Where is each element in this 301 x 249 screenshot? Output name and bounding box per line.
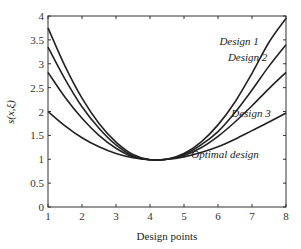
annotation-design-1: Design 1: [218, 35, 258, 47]
y-tick-label: 0: [39, 201, 45, 213]
y-axis-label: s(x,ξ): [4, 100, 17, 124]
y-tick-label: 2.5: [30, 82, 44, 94]
x-tick-label: 3: [113, 210, 119, 222]
y-tick-label: 1: [39, 153, 45, 165]
y-tick-label: 1.5: [30, 129, 44, 141]
x-tick-label: 7: [249, 210, 255, 222]
line-chart: 1234567800.511.522.533.54Design 1Design …: [0, 0, 301, 249]
plot-area: 1234567800.511.522.533.54Design 1Design …: [30, 10, 289, 222]
annotation-design-3: Design 3: [230, 107, 271, 119]
x-tick-label: 8: [283, 210, 289, 222]
annotation-optimal-design: Optimal design: [191, 148, 259, 160]
y-tick-label: 2: [39, 106, 45, 118]
y-tick-label: 0.5: [30, 177, 44, 189]
x-tick-label: 4: [147, 210, 153, 222]
y-tick-label: 3.5: [30, 34, 44, 46]
annotation-design-2: Design 2: [227, 51, 268, 63]
y-tick-label: 3: [39, 58, 45, 70]
y-tick-label: 4: [39, 10, 45, 22]
x-tick-label: 6: [215, 210, 221, 222]
x-tick-label: 1: [45, 210, 51, 222]
x-axis-label: Design points: [137, 230, 198, 242]
x-tick-label: 2: [79, 210, 85, 222]
x-tick-label: 5: [181, 210, 187, 222]
